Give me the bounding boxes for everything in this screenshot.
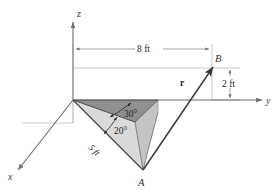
- axis-label-x: x: [7, 171, 13, 182]
- figure-container: z y x r B A 8 ft: [0, 0, 276, 191]
- point-label-A: A: [137, 177, 145, 188]
- vector-label-r: r: [180, 78, 185, 88]
- point-label-B: B: [215, 53, 222, 64]
- angle-label-30: 30°: [124, 109, 138, 119]
- dimension-label-2ft: 2 ft: [222, 79, 235, 89]
- dimension-label-5ft: 5 ft: [87, 142, 103, 158]
- vector-diagram: z y x r B A 8 ft: [0, 0, 276, 191]
- axis-label-z: z: [76, 8, 81, 19]
- axis-label-y: y: [265, 95, 271, 106]
- angle-label-20: 20°: [114, 126, 128, 136]
- axis-x: [18, 100, 73, 170]
- dimension-label-8ft: 8 ft: [137, 44, 150, 54]
